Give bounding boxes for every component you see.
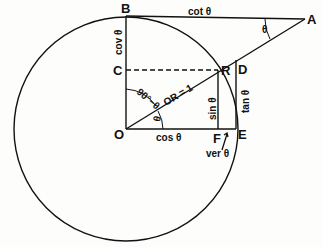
label-ver: ver θ: [206, 148, 229, 159]
label-radius: OR = 1: [161, 82, 194, 108]
label-O: O: [114, 127, 124, 142]
label-D: D: [238, 62, 247, 77]
label-C: C: [113, 63, 123, 78]
label-theta-O: θ: [151, 115, 163, 122]
label-cov: cov θ: [113, 30, 124, 55]
label-tan: tan θ: [240, 90, 251, 113]
label-theta-A: θ: [262, 24, 267, 35]
label-E: E: [238, 127, 247, 142]
label-F: F: [213, 131, 221, 146]
label-complement-angle: 90°−θ: [135, 86, 162, 111]
label-sin: sin θ: [207, 97, 218, 120]
label-cos: cos θ: [156, 132, 181, 143]
label-R: R: [221, 63, 231, 78]
label-B: B: [121, 1, 130, 16]
unit-circle-diagram: B A C R D O E F cot θ cov θ tan θ sin θ …: [0, 0, 323, 247]
segment-BA: [126, 16, 305, 19]
label-cot: cot θ: [188, 6, 211, 17]
label-A: A: [307, 12, 317, 27]
